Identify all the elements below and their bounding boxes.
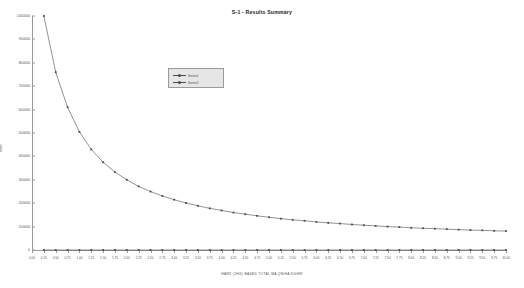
data-point-marker — [55, 249, 57, 251]
data-point-marker — [221, 249, 223, 251]
data-point-marker — [351, 224, 353, 226]
data-point-marker — [316, 221, 318, 223]
legend-label: Series1 — [188, 74, 199, 78]
data-point-marker — [398, 226, 400, 228]
data-point-marker — [126, 179, 128, 181]
data-point-marker — [292, 249, 294, 251]
data-point-marker — [339, 223, 341, 225]
data-point-marker — [197, 205, 199, 207]
data-point-marker — [209, 249, 211, 251]
data-point-marker — [470, 229, 472, 231]
data-point-marker — [304, 249, 306, 251]
data-point-marker — [256, 249, 258, 251]
legend-label: Series2 — [188, 81, 199, 85]
data-point-marker — [363, 224, 365, 226]
data-point-marker — [126, 249, 128, 251]
data-point-marker — [446, 249, 448, 251]
data-point-marker — [233, 249, 235, 251]
data-point-marker — [90, 249, 92, 251]
data-point-marker — [173, 249, 175, 251]
legend-item[interactable]: Series1 — [173, 72, 219, 79]
data-point-marker — [327, 222, 329, 224]
data-point-marker — [161, 195, 163, 197]
data-point-marker — [67, 249, 69, 251]
data-point-marker — [387, 249, 389, 251]
legend-item[interactable]: Series2 — [173, 79, 219, 86]
data-point-marker — [458, 249, 460, 251]
data-point-marker — [79, 131, 81, 133]
data-point-marker — [150, 191, 152, 193]
data-point-marker — [505, 230, 507, 232]
data-point-marker — [446, 228, 448, 230]
data-point-marker — [79, 249, 81, 251]
data-point-marker — [375, 249, 377, 251]
data-point-marker — [304, 220, 306, 222]
data-point-marker — [387, 226, 389, 228]
data-point-marker — [375, 225, 377, 227]
data-point-marker — [280, 218, 282, 220]
chart-container: S-1 - Results Summary MRR HARV (1HG) BAS… — [0, 0, 524, 288]
data-point-marker — [138, 185, 140, 187]
data-point-marker — [114, 249, 116, 251]
data-point-marker — [197, 249, 199, 251]
data-point-marker — [481, 229, 483, 231]
data-point-marker — [493, 230, 495, 232]
data-point-marker — [493, 249, 495, 251]
data-point-marker — [410, 249, 412, 251]
data-point-marker — [221, 210, 223, 212]
legend-marker-icon — [173, 81, 186, 84]
data-point-marker — [43, 249, 45, 251]
data-point-marker — [434, 249, 436, 251]
data-point-marker — [244, 213, 246, 215]
data-point-marker — [233, 212, 235, 214]
data-point-marker — [268, 249, 270, 251]
data-point-marker — [422, 249, 424, 251]
data-point-marker — [185, 249, 187, 251]
series-layer — [0, 0, 524, 288]
data-point-marker — [268, 216, 270, 218]
data-point-marker — [173, 199, 175, 201]
data-point-marker — [67, 106, 69, 108]
data-point-marker — [434, 228, 436, 230]
data-point-marker — [422, 227, 424, 229]
data-point-marker — [244, 249, 246, 251]
data-point-marker — [470, 249, 472, 251]
data-point-marker — [102, 161, 104, 163]
data-point-marker — [280, 249, 282, 251]
data-point-marker — [316, 249, 318, 251]
data-point-marker — [363, 249, 365, 251]
data-point-marker — [138, 249, 140, 251]
data-point-marker — [339, 249, 341, 251]
data-point-marker — [209, 207, 211, 209]
data-point-marker — [55, 71, 57, 73]
data-point-marker — [150, 249, 152, 251]
data-point-marker — [410, 227, 412, 229]
legend-marker-icon — [173, 74, 186, 77]
data-point-marker — [43, 15, 45, 17]
data-point-marker — [102, 249, 104, 251]
data-point-marker — [90, 148, 92, 150]
data-point-marker — [481, 249, 483, 251]
data-point-marker — [327, 249, 329, 251]
data-point-marker — [398, 249, 400, 251]
chart-legend[interactable]: Series1 Series2 — [168, 68, 224, 88]
data-point-marker — [256, 215, 258, 217]
data-point-marker — [185, 202, 187, 204]
series-line — [44, 16, 506, 231]
data-point-marker — [292, 219, 294, 221]
data-point-marker — [351, 249, 353, 251]
data-point-marker — [505, 249, 507, 251]
data-point-marker — [458, 229, 460, 231]
data-point-marker — [114, 171, 116, 173]
data-point-marker — [161, 249, 163, 251]
